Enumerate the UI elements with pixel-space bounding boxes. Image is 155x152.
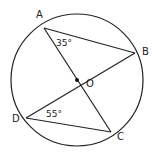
angle-a-label: 35° (56, 38, 72, 48)
label-c: C (117, 131, 124, 142)
label-d: D (12, 113, 20, 124)
circle-geometry-diagram: A B C D O 35° 55° (0, 0, 155, 152)
angle-d-label: 55° (46, 109, 62, 119)
chord-dc (26, 118, 111, 132)
center-point (75, 78, 79, 82)
diameter-bd (26, 53, 135, 118)
label-o: O (86, 78, 94, 89)
label-a: A (36, 9, 43, 20)
label-b: B (142, 46, 149, 57)
